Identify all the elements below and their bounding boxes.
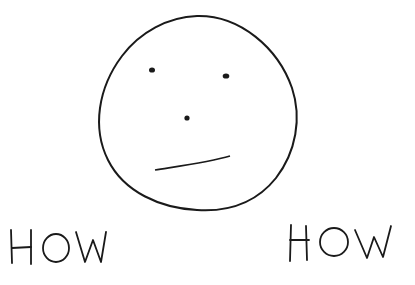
left-eye bbox=[149, 67, 155, 72]
label-right-how bbox=[290, 225, 391, 261]
nose-dot bbox=[184, 115, 189, 120]
faint-caption bbox=[0, 274, 415, 284]
face-drawing bbox=[0, 0, 415, 285]
head-outline bbox=[99, 16, 297, 210]
mouth-line bbox=[155, 156, 230, 170]
label-left-how bbox=[11, 230, 106, 264]
right-eye bbox=[223, 73, 230, 78]
